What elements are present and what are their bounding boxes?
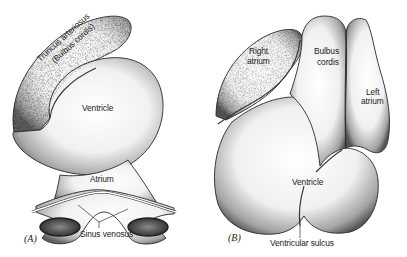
label-bulbus-cordis-1: Bulbus [314,46,339,56]
right-horn-opening [128,218,168,236]
label-right-atrium-1: Right [249,46,269,56]
label-left-atrium-2: atrium [361,96,384,106]
label-right-atrium-2: atrium [247,56,270,66]
label-ventricular-sulcus: Ventricular sulcus [270,238,334,248]
panel-a: Truncus arteriosus (Bulbus cordis) Ventr… [13,11,176,245]
left-atrium-shape [345,19,389,153]
label-atrium: Atrium [90,174,114,184]
label-bulbus-cordis-2: cordis [317,57,339,67]
label-sinus-venosus: Sinus venosus [80,229,133,239]
panel-label-a: (A) [24,233,37,245]
panel-b: Right atrium Bulbus cordis Left atrium V… [214,16,389,248]
label-ventricle-a: Ventricle [82,103,114,113]
label-ventricle-b: Ventricle [292,177,324,187]
left-horn-opening [40,218,80,236]
embryonic-heart-figure: Truncus arteriosus (Bulbus cordis) Ventr… [0,0,407,257]
panel-label-b: (B) [228,232,241,244]
